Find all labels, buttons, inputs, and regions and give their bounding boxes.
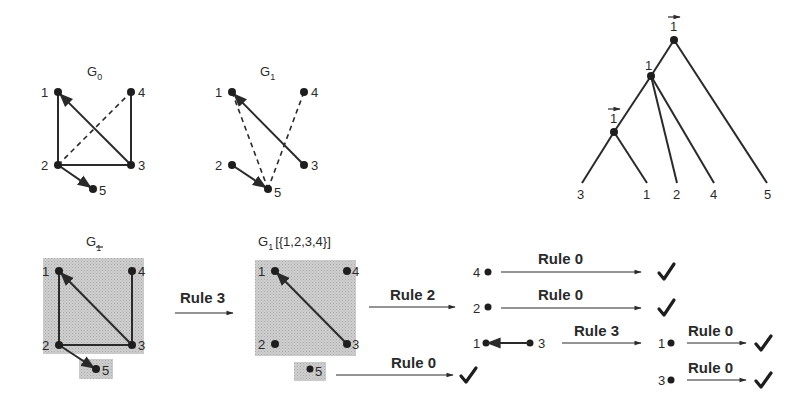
tree-sub-label: 1	[610, 111, 617, 126]
tree-edge	[651, 76, 714, 183]
tree-edge	[651, 76, 677, 183]
graph-edge	[268, 92, 304, 189]
graph-node	[127, 88, 135, 96]
tree-edge	[674, 40, 767, 183]
node-label: 4	[311, 85, 318, 100]
node-label: 4	[138, 85, 145, 100]
tree-root-label: 1	[670, 19, 677, 34]
tree-inner-label: 1	[645, 58, 652, 73]
node-label: 2	[473, 301, 480, 316]
rule-application-diagram: G0 14235 G1 14235 1 1 1 3 1 2 4 5 G1	[0, 0, 804, 403]
graph-edge	[60, 94, 131, 165]
graph-node	[89, 185, 97, 193]
node-label: 3	[538, 336, 545, 351]
graph-node	[300, 161, 308, 169]
node-label: 1	[473, 336, 480, 351]
check-icon	[756, 373, 771, 387]
tree-leaf: 3	[577, 187, 584, 202]
graph-g1-title: G1	[260, 64, 275, 82]
tree-edge	[614, 132, 647, 183]
node-label: 2	[215, 158, 222, 173]
rule0-label: Rule 0	[688, 359, 733, 376]
node-label: 1	[658, 336, 665, 351]
check-icon	[756, 336, 771, 350]
graph-node	[54, 88, 62, 96]
node-label: 3	[311, 158, 318, 173]
graph-g1: G1 14235	[215, 64, 318, 200]
graph-edge	[232, 92, 268, 189]
rule3-label: Rule 3	[180, 289, 225, 306]
decomposition-tree: 1 1 1 3 1 2 4 5	[577, 17, 771, 202]
tree-leaf: 4	[710, 187, 717, 202]
tree-edge	[582, 132, 614, 183]
node-label: 1	[258, 264, 265, 279]
tree-inner-node	[647, 72, 655, 80]
node-label: 1	[41, 85, 48, 100]
tree-leaf: 1	[643, 187, 650, 202]
rule2-label: Rule 2	[390, 286, 435, 303]
graph-node	[228, 161, 236, 169]
node-label: 4	[138, 264, 145, 279]
node-label: 1	[42, 264, 49, 279]
shaded-component	[255, 260, 356, 356]
rule0-label: Rule 0	[538, 250, 583, 267]
tree-edge	[614, 76, 651, 132]
graph-node	[127, 161, 135, 169]
graph-node	[300, 88, 308, 96]
check-icon	[461, 368, 476, 382]
graph-g0: G0 14235	[41, 64, 145, 198]
rule0-label: Rule 0	[538, 286, 583, 303]
graph-g0-title: G0	[87, 64, 102, 82]
node-label: 2	[258, 337, 265, 352]
rule0-label: Rule 0	[391, 354, 436, 371]
node-label: 4	[352, 264, 359, 279]
node-label: 5	[274, 185, 281, 200]
step-graph-g1bar-title: G1	[86, 234, 101, 253]
node-label: 1	[215, 85, 222, 100]
step-graph-g1-title: G1[{1,2,3,4}]	[258, 234, 331, 252]
graph-node	[264, 185, 272, 193]
tree-edge	[651, 40, 674, 76]
node-label: 5	[99, 183, 106, 198]
tree-sub-node	[610, 128, 618, 136]
graph-edge	[58, 165, 91, 187]
node-label: 5	[102, 363, 109, 378]
check-icon	[659, 264, 674, 279]
rule3-label: Rule 3	[574, 322, 619, 339]
node-label: 5	[315, 364, 322, 379]
tree-root-node	[670, 36, 678, 44]
step-graph-g1bar: G1 1 4 2 3 5	[42, 234, 145, 379]
check-icon	[659, 300, 674, 315]
graph-node	[54, 161, 62, 169]
node-label: 3	[138, 158, 145, 173]
node-label: 2	[42, 338, 49, 353]
step-graph-g1-partition: G1[{1,2,3,4}] 1 4 2 3 5	[255, 234, 359, 381]
node-label: 3	[138, 338, 145, 353]
graph-node	[228, 88, 236, 96]
node-label: 2	[41, 158, 48, 173]
node-label: 4	[473, 265, 480, 280]
node-label: 3	[658, 373, 665, 388]
tree-leaf: 5	[764, 187, 771, 202]
node-label: 3	[352, 337, 359, 352]
tree-leaf: 2	[673, 187, 680, 202]
graph-edge	[234, 94, 304, 165]
rule0-label: Rule 0	[688, 322, 733, 339]
